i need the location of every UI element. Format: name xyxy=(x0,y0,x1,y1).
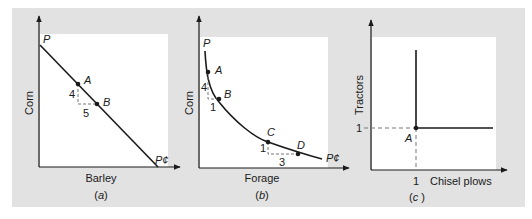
point-label-c-b: C xyxy=(267,126,275,138)
y-axis-label-c: Tractors xyxy=(353,75,365,115)
run-label-a: 5 xyxy=(83,107,89,119)
point-c-b xyxy=(266,140,271,145)
point-label-a-b: A xyxy=(214,64,222,76)
cd-run-label: 3 xyxy=(279,156,285,168)
curve-start-label-a: P xyxy=(43,33,51,45)
panel-a: P P¢ A B 4 5 Corn Barley (a) xyxy=(23,16,180,201)
figure-svg: P P¢ A B 4 5 Corn Barley (a) P P¢ A B C … xyxy=(0,0,532,219)
point-b-a xyxy=(95,102,100,107)
point-a-a xyxy=(76,82,81,87)
caption-c: (c ) xyxy=(409,191,425,203)
ab-run-label: 1 xyxy=(210,101,216,113)
point-label-b-b: B xyxy=(224,88,231,100)
caption-b: (b) xyxy=(255,189,268,201)
point-a-c xyxy=(414,126,419,131)
rise-label-a: 4 xyxy=(69,88,75,100)
caption-a: (a) xyxy=(94,189,107,201)
ab-rise-label: 4 xyxy=(201,81,207,93)
point-label-b: B xyxy=(103,96,110,108)
point-label-a-c: A xyxy=(404,132,412,144)
panel-b: P P¢ A B C D 4 1 1 3 Corn Forage (b) xyxy=(183,16,349,201)
point-label-a: A xyxy=(83,74,91,86)
curve-end-label-a: P¢ xyxy=(155,154,168,166)
y-axis-label-a: Corn xyxy=(23,91,35,115)
curve-end-label-b: P¢ xyxy=(326,152,339,164)
plot-area-c xyxy=(372,37,496,170)
x-axis-label-b: Forage xyxy=(245,172,280,184)
point-a-b xyxy=(206,70,211,75)
x-tick-c: 1 xyxy=(413,175,419,187)
point-label-d-b: D xyxy=(297,139,305,151)
point-d-b xyxy=(296,152,301,157)
y-axis-label-b: Corn xyxy=(183,91,195,115)
point-b-b xyxy=(217,97,222,102)
panel-c: A 1 1 Tractors Chisel plows (c ) xyxy=(353,20,507,203)
cd-rise-label: 1 xyxy=(260,142,266,154)
x-axis-label-c: Chisel plows xyxy=(430,175,492,187)
curve-start-label-b: P xyxy=(203,37,211,49)
y-tick-c: 1 xyxy=(356,122,362,134)
x-axis-label-a: Barley xyxy=(85,172,117,184)
